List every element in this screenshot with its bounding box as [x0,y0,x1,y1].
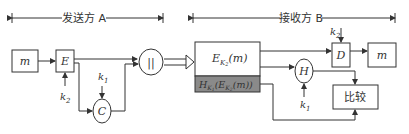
encrypt-box: E [56,50,74,72]
compare-box: 比较 [333,85,378,109]
key-k2-receiver: k2 [330,26,341,40]
receiver-label: 接收方 B [279,11,323,25]
svg-text:m: m [20,55,30,68]
svg-text:比较: 比较 [344,90,366,104]
transmit-arrow [164,55,194,69]
sender-span: 发送方 A [12,11,163,25]
svg-text:m: m [377,49,387,62]
cipher-block: EK2(m) [195,42,260,76]
diagram-canvas: 发送方 A 接收方 B m E k2 C k1 || [0,0,409,134]
key-k2-sender: k2 [60,91,71,105]
output-message-box: m [368,43,396,67]
mac-block: HK1(EK2(m)) [195,76,260,92]
key-k1-sender: k1 [98,71,109,85]
svg-text:||: || [147,56,154,70]
sender-label: 发送方 A [62,11,106,25]
svg-text:EK2(m): EK2(m) [211,52,247,67]
message-box: m [12,50,38,72]
svg-text:E: E [60,55,69,68]
receiver-span: 接收方 B [193,11,395,25]
svg-text:H: H [298,65,309,78]
decrypt-box: D [332,43,350,67]
concat-circle: || [139,49,163,75]
svg-text:D: D [336,49,346,62]
mac-circle: C [93,99,111,123]
key-k1-receiver: k1 [300,99,311,113]
svg-text:C: C [98,105,107,118]
hash-circle: H [295,59,313,83]
